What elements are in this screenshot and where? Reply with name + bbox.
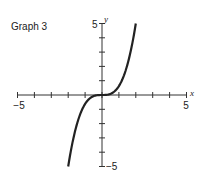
y-tick-label-max: 5	[92, 19, 98, 30]
y-axis-label: y	[103, 14, 108, 24]
cubic-graph: x y −5 5 5 −5	[0, 0, 201, 181]
x-tick-label-min: −5	[13, 100, 25, 111]
x-tick-label-max: 5	[183, 100, 189, 111]
x-axis-label: x	[189, 88, 194, 98]
y-tick-label-min: −5	[106, 161, 118, 172]
